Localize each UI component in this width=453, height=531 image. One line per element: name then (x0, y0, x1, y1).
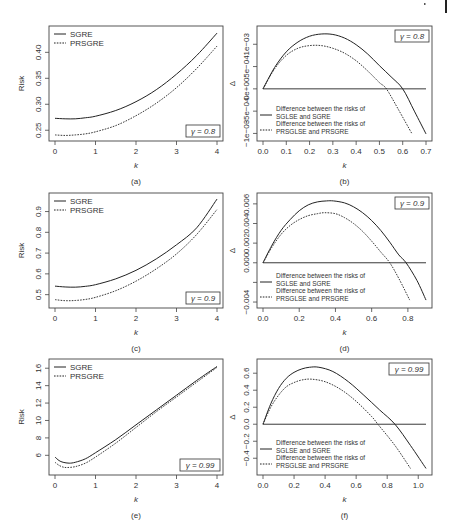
y-tick-label: 0e+00 (242, 77, 251, 100)
x-tick-label: 0.8 (402, 314, 414, 323)
y-axis-label: Risk (17, 408, 26, 425)
x-tick-label: 0 (53, 147, 58, 156)
panel-d: 0.00.20.40.60.8−0.0040.0000.0020.0040.00… (228, 193, 432, 353)
panel-c: 012340.50.60.70.80.9kRisk(c)γ = 0.9SGREP… (17, 193, 223, 353)
y-tick-label: 0.2 (242, 401, 251, 413)
x-tick-label: 0.6 (366, 314, 378, 323)
gamma-annotation: γ = 0.8 (191, 127, 216, 136)
panel-caption: (b) (340, 177, 350, 186)
panel-a: 012340.250.300.350.40kRisk(a)γ = 0.8SGRE… (17, 26, 223, 186)
x-tick-label: 0.4 (320, 481, 332, 490)
y-tick-label: 0.25 (34, 122, 43, 138)
x-tick-label: 0 (53, 314, 58, 323)
panel-caption: (e) (131, 511, 141, 520)
gamma-annotation: γ = 0.9 (400, 199, 425, 208)
x-axis-label: k (134, 161, 139, 170)
legend-label-line1: Difference between the risks of (276, 439, 365, 446)
page-corner-bar (445, 0, 447, 13)
y-tick-label: 0.6 (242, 367, 251, 379)
x-tick-label: 0.2 (294, 314, 306, 323)
panel-caption: (a) (131, 177, 141, 186)
gamma-annotation: γ = 0.8 (400, 32, 425, 41)
x-tick-label: 0.4 (330, 314, 342, 323)
gamma-annotation: γ = 0.99 (186, 461, 215, 470)
x-tick-label: 4 (215, 481, 220, 490)
legend-label-line2: SGLSE and SGRE (276, 113, 331, 120)
legend-label: SGRE (70, 197, 93, 206)
panel-f: 0.00.20.40.60.81.0−0.4−0.20.00.20.40.6kΔ… (228, 359, 432, 520)
y-tick-label: 0.0 (242, 418, 251, 430)
x-tick-label: 1 (93, 147, 98, 156)
legend-label-line2: PRSGLSE and PRSGRE (276, 462, 349, 469)
legend-label: PRSGRE (70, 39, 104, 48)
y-tick-label: −0.4 (242, 450, 251, 466)
y-tick-label: 6 (34, 453, 43, 458)
legend-label-line1: Difference between the risks of (276, 287, 365, 294)
y-tick-label: 0.7 (34, 247, 43, 259)
y-axis-label: Δ (228, 414, 237, 420)
y-tick-label: 0.4 (242, 384, 251, 396)
y-tick-label: 14 (34, 381, 43, 390)
y-tick-label: 0.5 (34, 289, 43, 301)
y-axis-label: Δ (228, 247, 237, 253)
y-tick-label: 0.004 (242, 213, 251, 234)
y-tick-label: 8 (34, 435, 43, 440)
x-tick-label: 2 (134, 481, 139, 490)
legend-label: PRSGRE (70, 206, 104, 215)
x-tick-label: 2 (134, 314, 139, 323)
y-tick-label: 10 (34, 415, 43, 424)
legend-label-line2: PRSGLSE and PRSGRE (276, 295, 349, 302)
legend-label: PRSGRE (70, 372, 104, 381)
y-tick-label: 0.8 (34, 226, 43, 238)
y-tick-label: 0.006 (242, 193, 251, 214)
y-tick-label: 0.30 (34, 96, 43, 112)
x-tick-label: 0.0 (257, 481, 269, 490)
x-axis-label: k (343, 161, 348, 170)
x-tick-label: 0.1 (281, 147, 293, 156)
x-tick-label: 0.5 (374, 147, 386, 156)
x-axis-label: k (134, 495, 139, 504)
x-axis-label: k (343, 328, 348, 337)
x-tick-label: 0.7 (420, 147, 432, 156)
x-tick-label: 0.6 (397, 147, 409, 156)
y-tick-label: 0.40 (34, 44, 43, 60)
legend-label-line1: Difference between the risks of (276, 105, 365, 112)
y-tick-label: 0.000 (242, 252, 251, 273)
x-tick-label: 2 (134, 147, 139, 156)
y-tick-label: 0.002 (242, 233, 251, 254)
y-tick-label: −0.2 (242, 433, 251, 449)
legend-label: SGRE (70, 30, 93, 39)
legend-label-line1: Difference between the risks of (276, 272, 365, 279)
y-axis-label: Δ (228, 80, 237, 86)
panel-caption: (d) (340, 344, 350, 353)
legend-label-line2: PRSGLSE and PRSGRE (276, 128, 349, 135)
x-tick-label: 0.2 (304, 147, 316, 156)
panel-b: 0.00.10.20.30.40.50.60.7−1e−03−5e−040e+0… (228, 26, 432, 186)
x-tick-label: 0.8 (382, 481, 394, 490)
x-tick-label: 0 (53, 481, 58, 490)
y-tick-label: −0.004 (242, 289, 251, 314)
legend-label: SGRE (70, 363, 93, 372)
y-tick-label: 16 (34, 363, 43, 372)
legend-label-line1: Difference between the risks of (276, 120, 365, 127)
y-tick-label: 12 (34, 398, 43, 407)
x-tick-label: 0.0 (257, 147, 269, 156)
x-tick-label: 0.6 (351, 481, 363, 490)
x-tick-label: 0.3 (327, 147, 339, 156)
legend-label-line2: SGLSE and SGRE (276, 447, 331, 454)
x-tick-label: 1.0 (413, 481, 425, 490)
x-tick-label: 4 (215, 314, 220, 323)
x-tick-label: 0.4 (351, 147, 363, 156)
x-tick-label: 3 (174, 147, 179, 156)
gamma-annotation: γ = 0.9 (191, 294, 216, 303)
y-tick-label: 5e−04 (242, 55, 251, 78)
x-tick-label: 4 (215, 147, 220, 156)
y-tick-label: 0.9 (34, 205, 43, 217)
x-tick-label: 3 (174, 314, 179, 323)
x-tick-label: 1 (93, 481, 98, 490)
gamma-annotation: γ = 0.99 (395, 365, 424, 374)
panel-e: 012346810121416kRisk(e)γ = 0.99SGREPRSGR… (17, 359, 223, 520)
x-tick-label: 0.0 (257, 314, 269, 323)
x-tick-label: 1 (93, 314, 98, 323)
x-tick-label: 3 (174, 481, 179, 490)
